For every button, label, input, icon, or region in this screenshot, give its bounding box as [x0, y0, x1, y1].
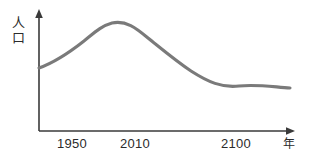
- y-axis-arrowhead: [35, 9, 43, 18]
- population-curve: [39, 22, 290, 88]
- y-axis-label-char-1: 人: [12, 15, 25, 30]
- x-axis-unit-label: 年: [283, 137, 295, 151]
- x-tick-label-1950: 1950: [57, 136, 87, 151]
- x-tick-label-2010: 2010: [120, 136, 150, 151]
- chart-canvas: 人 口 1950 2010 2100 年: [0, 0, 311, 160]
- y-axis-label-char-2: 口: [12, 30, 25, 45]
- population-trend-chart: 人 口 1950 2010 2100 年: [0, 0, 311, 160]
- x-axis-arrowhead: [286, 127, 295, 135]
- x-tick-label-2100: 2100: [221, 136, 251, 151]
